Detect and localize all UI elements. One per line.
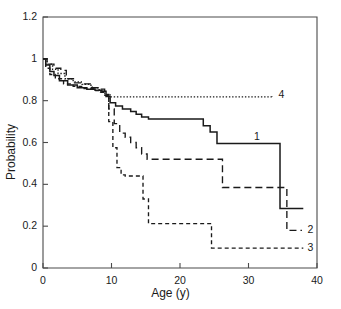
series-label-2: 2 (307, 223, 313, 235)
x-axis-title: Age (y) (0, 286, 341, 300)
y-tick-label: 0 (3, 261, 37, 273)
x-tick-label: 20 (160, 274, 200, 286)
y-tick-label: 0.2 (3, 219, 37, 231)
x-tick-label: 40 (297, 274, 337, 286)
series-label-1: 1 (254, 130, 260, 142)
plot-frame (43, 17, 317, 268)
x-tick-label: 10 (92, 274, 132, 286)
series-label-4: 4 (279, 88, 285, 100)
y-axis-title: Probability (4, 97, 18, 207)
series-label-3: 3 (307, 241, 313, 253)
plot-canvas (0, 0, 341, 309)
series-line-4 (43, 59, 272, 98)
y-tick-label: 0.6 (3, 136, 37, 148)
x-tick-label: 0 (23, 274, 63, 286)
y-tick-label: 0.4 (3, 177, 37, 189)
x-tick-label: 30 (229, 274, 269, 286)
y-tick-label: 0.8 (3, 94, 37, 106)
survival-curve-figure: Age (y) Probability 00.20.40.60.811.2 01… (0, 0, 341, 309)
y-tick-label: 1.2 (3, 10, 37, 22)
y-tick-label: 1 (3, 52, 37, 64)
series-line-1 (43, 59, 303, 209)
